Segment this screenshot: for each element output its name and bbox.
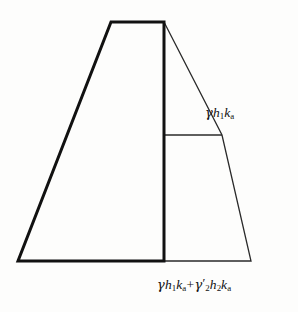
label-top-k-subscript: a <box>230 111 234 121</box>
label-bottom-term2-k-subscript: a <box>227 283 231 293</box>
retaining-wall-outline <box>18 22 164 261</box>
pressure-label-bottom: γh1ka+γ′2h2ka <box>157 277 231 293</box>
label-bottom-operator: + <box>186 277 194 292</box>
label-top-h: h <box>213 105 220 120</box>
figure-drawing-canvas <box>0 0 298 312</box>
pressure-label-top: γh1ka <box>205 106 234 121</box>
earth-pressure-figure: γh1ka γh1ka+γ′2h2ka <box>0 0 298 312</box>
label-bottom-term1-gamma: γ <box>157 277 165 292</box>
label-top-gamma: γ <box>205 105 213 120</box>
label-bottom-term1-h: h <box>165 277 172 292</box>
pressure-distribution-outline <box>164 22 251 261</box>
label-bottom-term2-h: h <box>210 277 217 292</box>
